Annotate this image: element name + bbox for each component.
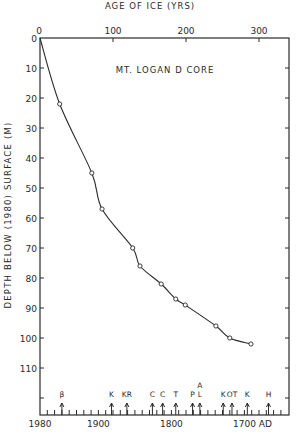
left-tick-label: 30 xyxy=(26,124,38,134)
top-tick-label: 200 xyxy=(177,26,194,36)
data-point xyxy=(214,324,218,328)
data-point xyxy=(174,297,178,301)
data-point xyxy=(131,246,135,250)
top-axis-age: 0100200300 xyxy=(36,26,268,42)
event-label: K xyxy=(245,390,251,399)
left-tick-label: 110 xyxy=(20,364,37,374)
data-point xyxy=(183,303,187,307)
data-point xyxy=(159,282,163,286)
left-tick-label: 20 xyxy=(26,94,38,104)
event-label: H xyxy=(266,390,272,399)
top-tick-label: 0 xyxy=(36,26,42,36)
event-label: OT xyxy=(227,390,238,399)
right-axis-ticks xyxy=(285,68,289,398)
bottom-tick-label: 1980 xyxy=(29,419,52,429)
bottom-tick-label: 1700 AD xyxy=(233,419,272,429)
depth-age-line xyxy=(40,38,251,344)
bottom-tick-label: 1800 xyxy=(160,419,183,429)
event-label: β xyxy=(60,390,65,399)
event-label: A xyxy=(197,381,203,390)
data-point xyxy=(249,342,253,346)
left-tick-label: 80 xyxy=(26,274,38,284)
event-label: C xyxy=(160,390,165,399)
top-tick-label: 100 xyxy=(104,26,121,36)
depth-curve xyxy=(40,38,251,344)
left-tick-label: 70 xyxy=(26,244,38,254)
top-axis-label: AGE OF ICE (YRS) xyxy=(105,1,195,11)
event-markers: βKKRCCTPALKOTKH xyxy=(60,381,272,415)
left-tick-label: 90 xyxy=(26,304,38,314)
event-label: K xyxy=(109,390,115,399)
data-point xyxy=(138,264,142,268)
left-tick-label: 60 xyxy=(26,214,38,224)
chart-title: MT. LOGAN D CORE xyxy=(116,65,215,75)
data-point xyxy=(58,102,62,106)
event-label: KR xyxy=(122,390,132,399)
left-tick-label: 50 xyxy=(26,184,38,194)
depth-age-chart: 0100200300 0102030405060708090100110 198… xyxy=(0,0,300,446)
plot-border xyxy=(40,38,289,415)
data-point xyxy=(228,336,232,340)
data-point xyxy=(100,207,104,211)
event-label: P xyxy=(190,390,195,399)
event-label: L xyxy=(198,390,203,399)
left-tick-label: 0 xyxy=(31,34,37,44)
left-tick-label: 40 xyxy=(26,154,38,164)
data-point-markers xyxy=(58,102,253,346)
event-label: C xyxy=(150,390,155,399)
bottom-tick-label: 1900 xyxy=(87,419,110,429)
bottom-axis-years: 1980190018001700 AD xyxy=(29,410,281,429)
plot-frame xyxy=(40,38,289,415)
data-point xyxy=(90,171,94,175)
event-label: T xyxy=(172,390,178,399)
top-tick-label: 300 xyxy=(250,26,267,36)
y-axis-label: DEPTH BELOW (1980) SURFACE (M) xyxy=(3,122,13,309)
left-tick-label: 10 xyxy=(26,64,38,74)
left-tick-label: 100 xyxy=(20,334,37,344)
